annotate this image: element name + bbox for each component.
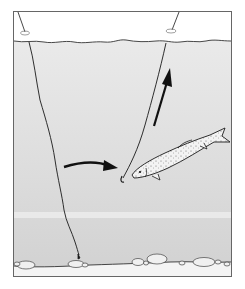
water [14,40,231,268]
fishing-diagram [0,0,245,289]
water-light-band [14,212,231,218]
trout-eye [139,171,141,173]
